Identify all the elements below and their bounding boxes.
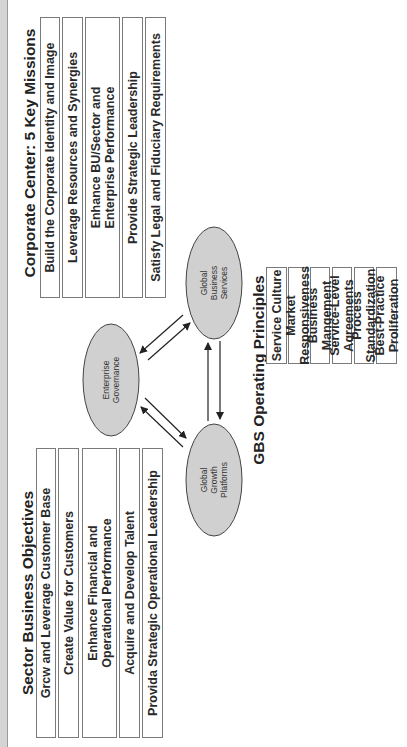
gbs-principles-list: Service Culture Market Responsiveness Bu…: [266, 267, 397, 364]
arrow-eg-to-gbs: [148, 323, 190, 360]
arrow-eg-to-ggp: [145, 398, 186, 438]
gbs-principle-item: Market Responsiveness: [288, 267, 308, 364]
label-global-business-services: Global Business Services: [199, 266, 229, 301]
gbs-principle-item: Process Standardization: [354, 267, 374, 364]
arrow-gbs-to-eg: [140, 315, 183, 353]
arrow-ggp-to-eg: [141, 407, 183, 447]
gbs-principle-item: Best-Practice Proliferation: [376, 267, 397, 364]
label-enterprise-governance: Enterprise Governance: [101, 357, 121, 403]
label-global-growth-platforms: Global Growth Platforms: [199, 462, 229, 498]
gbs-principle-item: Business Mangement: [310, 267, 330, 364]
governance-cycle-graphic: [0, 0, 407, 747]
gbs-principle-item: Service-Level Agreements: [332, 267, 352, 364]
diagram-canvas: Sector Business Objectives Grcw and Leve…: [0, 0, 407, 747]
